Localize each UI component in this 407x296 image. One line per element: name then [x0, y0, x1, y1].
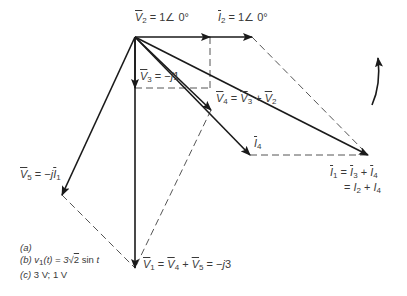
rotation-arrow-icon: [372, 58, 379, 105]
subscript: 1: [56, 173, 60, 182]
subscript: 4: [257, 142, 261, 151]
phasor-arrows: [62, 37, 368, 268]
symbol-v: V: [240, 92, 247, 104]
symbol-v: V: [167, 258, 174, 270]
dashed-v4-to-v1: [135, 110, 211, 268]
phasor-v5: [62, 37, 135, 195]
value-text: = −: [152, 70, 171, 82]
caption-b: (b) v1(t) = 3√2 sin t: [20, 254, 99, 269]
subscript: 4: [377, 186, 381, 195]
label-i4: I4: [254, 137, 262, 153]
label-v4: V4 = V3 + V2: [216, 92, 276, 108]
symbol-v: V: [192, 258, 199, 270]
value-text: = 1∠ 0°: [226, 11, 268, 23]
expr-arg: (t) = 3: [43, 254, 68, 265]
label-i2: I2 = 1∠ 0°: [218, 11, 268, 27]
expr-sin: sin: [79, 254, 96, 265]
caption-c-text: 3 V; 1 V: [31, 269, 67, 280]
label-v3: V3 = −j1: [140, 70, 179, 86]
label-v1: V1 = V4 + V5 = −j3: [143, 258, 231, 274]
plus: +: [358, 166, 371, 178]
equals: =: [338, 166, 351, 178]
value-text: 3: [225, 258, 231, 270]
label-v5: V5 = −jI1: [20, 168, 61, 184]
plus: +: [179, 258, 192, 270]
label-i1-line1: I1 = I3 + I4: [330, 166, 378, 182]
figure-caption: (a) (b) v1(t) = 3√2 sin t (c) 3 V; 1 V: [20, 242, 99, 281]
value-text: = 1∠ 0°: [147, 11, 189, 23]
plus: +: [361, 181, 374, 193]
construction-lines: [62, 37, 368, 268]
plus: +: [252, 92, 265, 104]
value-text: 1: [173, 70, 179, 82]
label-v2: V2 = 1∠ 0°: [135, 11, 189, 27]
value-text: = −: [203, 258, 222, 270]
expr-t: t: [97, 254, 100, 265]
caption-a-label: (a): [20, 242, 32, 253]
equals: =: [155, 258, 168, 270]
caption-c: (c) 3 V; 1 V: [20, 269, 99, 281]
symbol-v: V: [265, 92, 272, 104]
caption-a: (a): [20, 242, 99, 254]
label-i1-line2: = I2 + I4: [344, 181, 381, 197]
caption-c-label: (c): [20, 269, 31, 280]
equals: =: [228, 92, 241, 104]
caption-b-label: (b): [20, 254, 32, 265]
value-text: = −: [32, 168, 51, 180]
subscript: 4: [373, 171, 377, 180]
subscript: 2: [272, 97, 276, 106]
